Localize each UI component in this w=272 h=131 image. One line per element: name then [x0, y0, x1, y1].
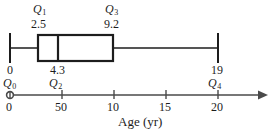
- max-symbol-label: Q4: [208, 77, 221, 91]
- x-tick-label-0: 0: [6, 101, 12, 113]
- x-axis-arrow: [258, 91, 268, 100]
- median-value-label: 4.3: [50, 64, 65, 76]
- box-iqr: [38, 35, 113, 61]
- max-symbol-subscript: 4: [217, 82, 222, 91]
- x-tick-label-4: 20: [211, 101, 223, 113]
- boxplot-figure: Q1 Q3 2.5 9.2 0 4.3 19 Q0: [0, 0, 272, 131]
- min-symbol-subscript: 0: [12, 82, 17, 91]
- median-symbol-label: Q2: [49, 77, 62, 91]
- min-symbol-label: Q0: [3, 77, 16, 91]
- x-tick-label-2: 10: [107, 101, 119, 113]
- x-axis-title: Age (yr): [118, 115, 162, 128]
- min-symbol-text: Q: [3, 76, 12, 90]
- min-value-label: 0: [7, 64, 13, 76]
- median-symbol-subscript: 2: [58, 82, 63, 91]
- x-tick-label-3: 15: [159, 101, 171, 113]
- x-tick-label-1: 50: [55, 101, 67, 113]
- boxplot-graphic: [0, 0, 272, 131]
- max-symbol-text: Q: [208, 76, 217, 90]
- median-symbol-text: Q: [49, 76, 58, 90]
- max-value-label: 19: [211, 64, 223, 76]
